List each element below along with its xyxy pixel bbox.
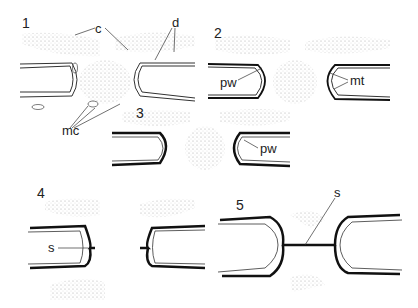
label-mt: mt — [350, 74, 364, 87]
panel-5 — [218, 198, 402, 292]
diagram-canvas — [0, 0, 418, 308]
label-c: c — [95, 22, 102, 35]
label-pw: pw — [220, 76, 237, 89]
label-s-4: s — [48, 241, 55, 254]
panel-5-number: 5 — [236, 198, 244, 212]
panel-1-number: 1 — [22, 16, 30, 30]
label-pw-3: pw — [260, 142, 277, 155]
label-mc: mc — [62, 124, 79, 137]
panel-3-number: 3 — [136, 106, 144, 120]
label-s-5: s — [334, 186, 341, 199]
label-d: d — [172, 16, 179, 29]
panel-2-number: 2 — [214, 26, 222, 40]
panel-2 — [208, 35, 390, 104]
panel-4-number: 4 — [37, 186, 45, 200]
